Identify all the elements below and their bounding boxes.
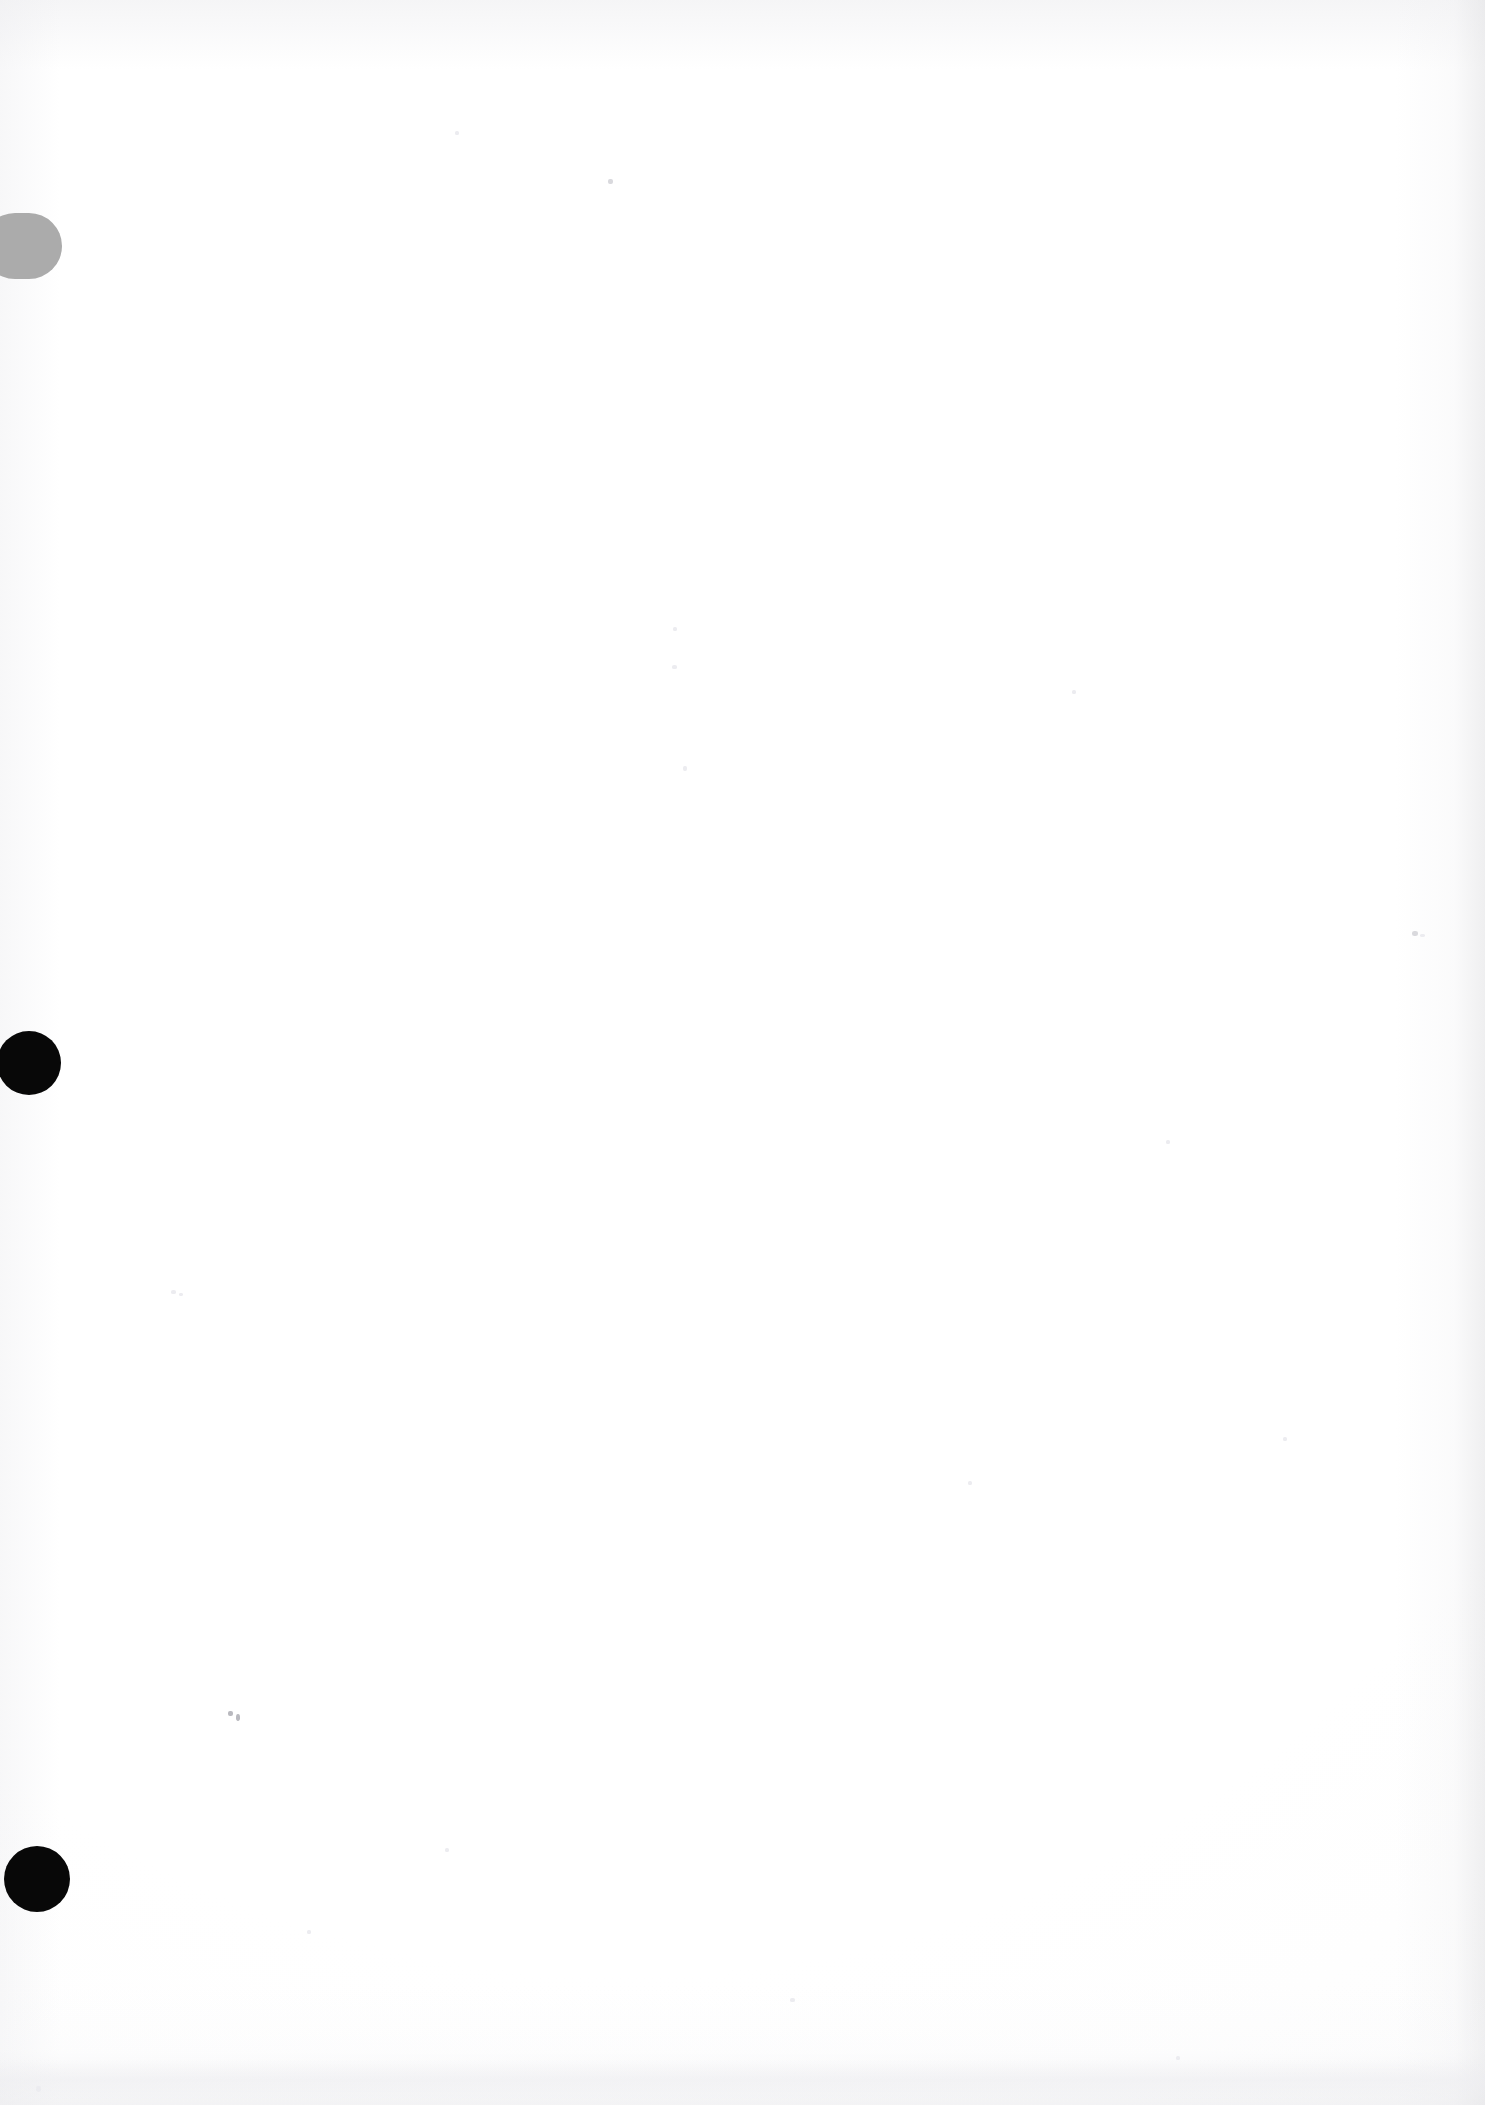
page-content-area [0,0,1485,2105]
black-dot-upper [0,1031,61,1095]
black-dot-lower [4,1846,70,1912]
scanned-page [0,0,1485,2105]
